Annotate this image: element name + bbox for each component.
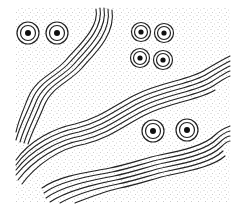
concentric-circle-icon	[176, 119, 198, 141]
concentric-circle-icon	[46, 22, 68, 44]
concentric-circle-icon	[142, 120, 164, 142]
dot-painting-illustration	[0, 0, 238, 218]
concentric-circle-icon	[154, 51, 173, 70]
concentric-circle-icon	[155, 24, 174, 43]
concentric-circle-icon	[131, 49, 150, 68]
concentric-circle-icon	[132, 23, 151, 42]
concentric-circle-icon	[17, 22, 39, 44]
